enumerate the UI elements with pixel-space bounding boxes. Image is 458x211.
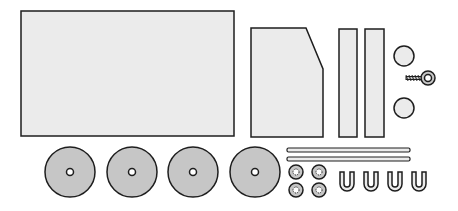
axle-rod	[287, 148, 410, 152]
axle-rod	[287, 157, 410, 161]
wheel-hole	[129, 169, 136, 176]
light-disc	[394, 46, 414, 66]
cab-panel	[251, 28, 323, 137]
wheel-hole	[67, 169, 74, 176]
side-strip	[339, 29, 357, 137]
hub-center	[293, 169, 299, 175]
hub-center	[316, 187, 322, 193]
eye-screw-icon	[406, 71, 435, 85]
hub-center	[316, 169, 322, 175]
u-clip	[340, 172, 354, 191]
side-strip	[365, 29, 384, 137]
parts-canvas	[0, 0, 458, 211]
u-clip	[364, 172, 378, 191]
u-clip	[412, 172, 426, 191]
wheel-hole	[252, 169, 259, 176]
light-disc	[394, 98, 414, 118]
wheel-hole	[190, 169, 197, 176]
body-panel	[21, 11, 234, 136]
u-clip	[388, 172, 402, 191]
hub-center	[293, 187, 299, 193]
